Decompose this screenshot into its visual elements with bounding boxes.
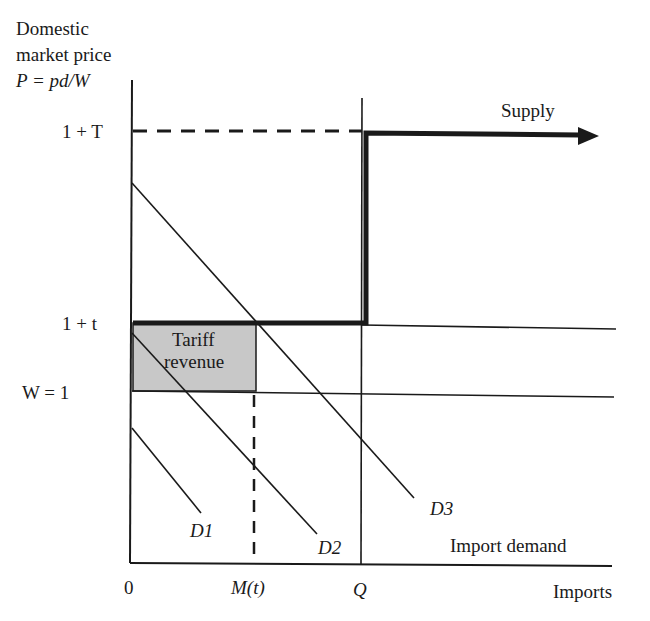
supply-label: Supply: [501, 100, 555, 121]
demand-curve-d1: [132, 428, 201, 513]
world-price-line: [132, 391, 614, 397]
supply-curve: [133, 133, 580, 323]
demand-label-d3: D3: [429, 498, 453, 519]
tariff-quota-diagram: Domestic market price P = pd/W 1 + T 1 +…: [0, 0, 650, 621]
y-axis-label-line3: P = pd/W: [15, 70, 92, 91]
x-axis-label: Imports: [553, 581, 612, 602]
demand-label-d1: D1: [189, 520, 213, 541]
x-tick-quota: Q: [353, 579, 367, 600]
import-demand-label: Import demand: [450, 535, 567, 556]
x-axis: [130, 563, 612, 566]
y-tick-world-price: W = 1: [22, 382, 69, 403]
y-tick-tariff: 1 + t: [62, 313, 98, 334]
y-axis: [130, 80, 132, 563]
x-tick-mt: M(t): [230, 577, 265, 599]
supply-arrow-icon: [578, 127, 599, 145]
quota-line: [361, 98, 362, 564]
x-tick-origin: 0: [124, 577, 134, 598]
tariff-revenue-label-line1: Tariff: [172, 329, 215, 350]
y-axis-label-line1: Domestic: [16, 18, 89, 39]
y-tick-upper-tariff: 1 + T: [62, 121, 103, 142]
tariff-price-line: [362, 325, 616, 329]
y-axis-label-line2: market price: [16, 44, 111, 65]
tariff-revenue-label-line2: revenue: [164, 351, 224, 372]
demand-label-d2: D2: [317, 537, 342, 558]
